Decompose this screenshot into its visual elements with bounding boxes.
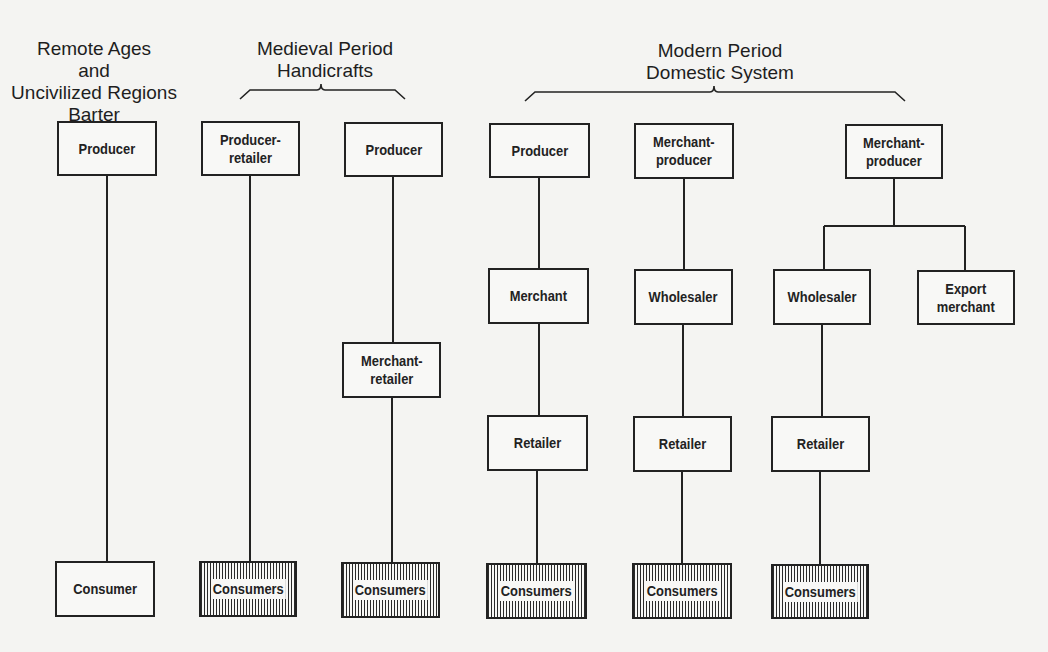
box-label: Merchant- producer xyxy=(653,133,715,169)
box-label: Retailer xyxy=(514,434,561,452)
box-label: Merchant- retailer xyxy=(361,352,423,388)
modern-brace xyxy=(525,86,905,101)
box-mod3-retailer: Retailer xyxy=(771,416,870,472)
box-med2-merchant-retailer: Merchant- retailer xyxy=(342,342,441,398)
box-label: Merchant- producer xyxy=(863,134,925,170)
box-mod3-wholesaler: Wholesaler xyxy=(773,269,871,325)
medieval-brace xyxy=(240,84,405,99)
box-label: Export merchant xyxy=(937,280,995,316)
box-label: Consumers xyxy=(645,581,719,601)
box-label: Consumers xyxy=(353,580,427,600)
box-label: Wholesaler xyxy=(649,288,718,306)
box-label: Producer xyxy=(365,141,422,159)
box-mod2-wholesaler: Wholesaler xyxy=(634,269,733,325)
box-mod3-merchant-producer: Merchant- producer xyxy=(845,124,943,179)
box-mod3-consumers: Consumers xyxy=(771,564,869,619)
box-barter-consumer: Consumer xyxy=(55,561,155,617)
box-mod2-retailer: Retailer xyxy=(633,416,732,472)
distribution-channels-diagram: Remote Ages and Uncivilized Regions Bart… xyxy=(0,0,1048,652)
box-label: Producer- retailer xyxy=(220,131,281,167)
box-mod1-producer: Producer xyxy=(489,123,590,178)
heading-medieval: Medieval Period Handicrafts xyxy=(230,38,420,82)
heading-barter: Remote Ages and Uncivilized Regions Bart… xyxy=(4,38,184,126)
box-label: Retailer xyxy=(659,435,706,453)
box-label: Merchant xyxy=(510,287,567,305)
box-mod2-merchant-producer: Merchant- producer xyxy=(634,123,734,179)
box-med2-consumers: Consumers xyxy=(341,562,440,618)
box-label: Consumers xyxy=(783,582,857,602)
box-med1-producer-retailer: Producer- retailer xyxy=(201,121,300,176)
box-label: Consumers xyxy=(499,581,573,601)
heading-modern: Modern Period Domestic System xyxy=(600,40,840,84)
box-label: Consumers xyxy=(211,579,285,599)
box-label: Producer xyxy=(511,142,568,160)
box-label: Retailer xyxy=(797,435,844,453)
box-mod1-consumers: Consumers xyxy=(486,563,587,619)
box-mod2-consumers: Consumers xyxy=(632,563,732,619)
box-med1-consumers: Consumers xyxy=(199,561,297,617)
box-barter-producer: Producer xyxy=(57,121,157,176)
box-mod3-export-merchant: Export merchant xyxy=(917,270,1015,325)
box-label: Consumer xyxy=(73,580,137,598)
box-label: Wholesaler xyxy=(788,288,857,306)
box-label: Producer xyxy=(79,140,136,158)
box-mod1-retailer: Retailer xyxy=(487,415,588,471)
box-mod1-merchant: Merchant xyxy=(488,268,589,324)
box-med2-producer: Producer xyxy=(344,122,443,177)
